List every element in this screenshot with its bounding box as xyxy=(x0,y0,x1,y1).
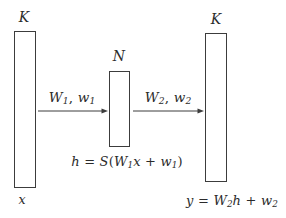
output-eq-weight: W xyxy=(213,193,227,208)
first-bias-subscript: 1 xyxy=(89,95,95,106)
second-bias-symbol: w xyxy=(174,89,186,105)
hidden-eq-plus: + xyxy=(141,154,161,169)
output-eq-hidden: h xyxy=(233,193,242,208)
neural-network-diagram: K x N K W1, w1 W2, w2 h = S(W1x + w1) y … xyxy=(0,0,286,218)
first-weight-separator: , xyxy=(69,89,78,105)
second-weight-separator: , xyxy=(165,89,174,105)
second-layer-weight-label: W2, w2 xyxy=(145,91,192,105)
first-bias-symbol: w xyxy=(78,89,90,105)
output-equation: y = W2h + w2 xyxy=(186,194,278,209)
first-layer-arrow-shape xyxy=(38,108,108,113)
diagram-vector-layer xyxy=(0,0,286,218)
output-eq-plus: + xyxy=(241,193,261,208)
output-vector-rect xyxy=(206,34,227,182)
hidden-vector-rect xyxy=(110,72,130,147)
hidden-dimension-label: N xyxy=(113,49,125,63)
hidden-eq-close-paren: ) xyxy=(177,154,182,169)
second-layer-arrow-shape xyxy=(133,108,204,113)
hidden-activation-equation: h = S(W1x + w1) xyxy=(71,155,182,170)
output-eq-equals: = xyxy=(194,193,214,208)
second-weight-matrix-symbol: W xyxy=(145,89,159,105)
input-vector-rect xyxy=(15,32,36,188)
output-eq-bias-subscript: 2 xyxy=(272,199,278,209)
hidden-eq-lhs: h xyxy=(71,154,80,169)
input-dimension-label: K xyxy=(19,10,30,24)
output-dimension-label: K xyxy=(211,12,222,26)
hidden-eq-bias: w xyxy=(161,154,172,169)
first-weight-matrix-symbol: W xyxy=(49,89,63,105)
output-eq-lhs: y xyxy=(186,193,194,208)
hidden-eq-weight: W xyxy=(114,154,128,169)
hidden-eq-equals: = xyxy=(80,154,100,169)
input-variable-label: x xyxy=(18,194,25,207)
second-bias-subscript: 2 xyxy=(185,95,191,106)
first-layer-weight-label: W1, w1 xyxy=(49,91,96,105)
output-eq-bias: w xyxy=(261,193,272,208)
